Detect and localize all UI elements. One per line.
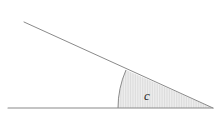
- geometry-canvas: c: [0, 0, 218, 119]
- angle-label-c: c: [144, 88, 150, 103]
- geometry-figure: c: [0, 0, 218, 119]
- shaded-angle-sector: [118, 70, 213, 108]
